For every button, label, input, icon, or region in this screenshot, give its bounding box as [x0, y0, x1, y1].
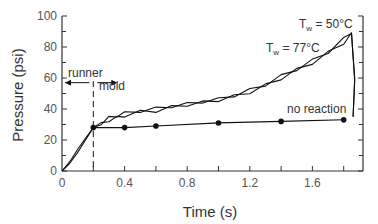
data-point-marker [91, 125, 97, 131]
axes: 02040608010000.40.81.21.6 [37, 9, 363, 190]
mold-label: mold [99, 79, 125, 93]
y-axis-title: Pressure (psi) [9, 48, 26, 141]
x-tick-label: 0.4 [116, 176, 133, 190]
x-tick-label: 0.8 [179, 176, 196, 190]
x-tick-label: 1.2 [241, 176, 258, 190]
runner-arrowhead-icon [65, 80, 71, 86]
y-tick-label: 80 [44, 40, 58, 54]
runner-label: runner [68, 66, 103, 80]
pressure-time-chart: 02040608010000.40.81.21.6 Time (s) Press… [0, 0, 378, 224]
data-point-marker [278, 119, 284, 125]
data-point-marker [122, 125, 128, 131]
x-tick-label: 0 [59, 176, 66, 190]
tw50-label: Tw = 50°C [299, 17, 353, 33]
x-tick-label: 1.6 [304, 176, 321, 190]
y-tick-label: 0 [50, 164, 57, 178]
data-point-marker [153, 123, 159, 129]
x-axis-title: Time (s) [183, 203, 237, 220]
data-point-marker [341, 117, 347, 123]
y-tick-label: 100 [37, 9, 57, 23]
no-reaction-label: no reaction [287, 102, 346, 116]
tw77-label: Tw = 77°C [266, 41, 320, 57]
y-tick-label: 20 [44, 133, 58, 147]
y-tick-label: 40 [44, 102, 58, 116]
data-point-marker [216, 120, 222, 126]
y-tick-label: 60 [44, 71, 58, 85]
